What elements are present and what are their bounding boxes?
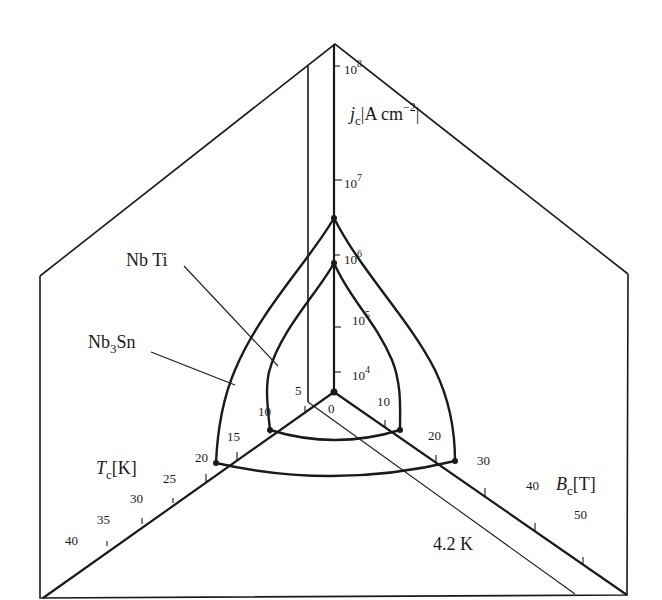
t-tick-0: 0 xyxy=(328,401,335,416)
b-tick-40: 40 xyxy=(526,478,539,493)
nbti-label: Nb Ti xyxy=(126,250,168,270)
isotherm-label: 4.2 K xyxy=(433,534,473,554)
j-tick-1e7: 107 xyxy=(344,172,362,191)
isotherm-4-2k: 4.2 K xyxy=(308,402,575,594)
b-tick-labels: 10 20 30 40 50 xyxy=(377,394,587,522)
t-axis-title: Tc[K] xyxy=(96,458,137,482)
t-axis xyxy=(43,392,334,598)
label-nbti: Nb Ti xyxy=(126,250,278,366)
t-tick-15: 15 xyxy=(227,429,240,444)
b-tick-10: 10 xyxy=(377,394,390,409)
t-tick-30: 30 xyxy=(130,491,143,506)
j-tick-1e8: 108 xyxy=(344,58,362,77)
origin-point xyxy=(331,389,338,396)
t-tick-5: 5 xyxy=(295,383,302,398)
b-tick-20: 20 xyxy=(428,428,441,443)
critical-surface-diagram: 107 106 105 104 108 jc|A cm−2| 0 5 10 15… xyxy=(0,0,662,600)
nb3sn-label: Nb3Sn xyxy=(88,332,136,356)
critical-surface-nb3sn xyxy=(213,215,458,476)
j-tick-1e4: 104 xyxy=(352,364,370,383)
b-tick-30: 30 xyxy=(477,453,490,468)
b-axis-title: Bc[T] xyxy=(556,474,596,498)
b-tick-50: 50 xyxy=(574,507,587,522)
t-tick-40: 40 xyxy=(65,533,78,548)
t-tick-20: 20 xyxy=(195,450,208,465)
t-tick-35: 35 xyxy=(97,512,110,527)
j-axis-title: jc|A cm−2| xyxy=(348,100,419,128)
label-nb3sn: Nb3Sn xyxy=(88,332,235,385)
t-tick-25: 25 xyxy=(163,471,176,486)
